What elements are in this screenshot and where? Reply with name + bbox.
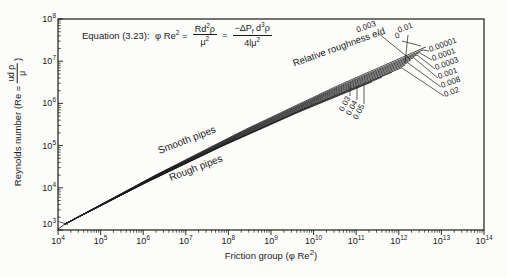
curve-ed-0.003 [65, 60, 411, 224]
x-tick-label-10e9: 109 [257, 235, 285, 246]
x-tick-label-10e8: 108 [214, 235, 242, 246]
x-tick-label-10e6: 106 [129, 235, 157, 246]
equation-fraction-2: −ΔPf d3ρ 4lμ2 [233, 21, 272, 49]
label-relative-roughness: Relative roughness e/d [291, 25, 386, 69]
curve-ed-0.04 [65, 77, 382, 224]
laminar-flow-line [58, 224, 65, 229]
leader-line-ed-0.00001 [423, 50, 429, 51]
roughness-label-0.01: 0.01 [396, 21, 414, 35]
x-axis-title: Friction group (φ Re2) [58, 248, 484, 261]
x-tick-label-10e10: 1010 [300, 235, 328, 246]
x-tick-label-10e14: 1014 [470, 235, 498, 246]
x-tick-label-10e12: 1012 [385, 235, 413, 246]
equation-fraction-1: Rd2ρ μ2 [193, 22, 217, 48]
y-tick-label-10e8: 108 [32, 13, 56, 24]
x-tick-label-10e7: 107 [172, 235, 200, 246]
leader-line-ed-0.003 [378, 33, 410, 59]
y-axis-title: Reynolds number (Re = ud ρ μ ) [7, 58, 28, 186]
x-tick-label-10e5: 105 [87, 235, 115, 246]
y-tick-label-10e3: 103 [32, 218, 56, 229]
y-tick-label-10e4: 104 [32, 182, 56, 193]
y-tick-label-10e5: 105 [32, 140, 56, 151]
curve-ed-0.03 [65, 72, 392, 224]
x-tick-label-10e4: 104 [44, 235, 72, 246]
y-tick-label-10e6: 106 [32, 97, 56, 108]
y-axis-fraction: ud ρ μ [7, 63, 28, 84]
leader-line-ed-0 [402, 41, 421, 46]
pipe-friction-chart: 00.000010.00010.00030.0010.0030.0080.010… [0, 0, 507, 278]
curve-ed-0.02 [65, 68, 402, 225]
y-tick-label-10e7: 107 [32, 55, 56, 66]
x-tick-label-10e13: 1013 [427, 235, 455, 246]
x-tick-label-10e11: 1011 [342, 235, 370, 246]
equation-annotation: Equation (3.23): φ Re2 = Rd2ρ μ2 = −ΔPf … [82, 21, 272, 49]
equation-prefix: Equation (3.23): φ Re2 = [82, 29, 188, 41]
equation-equals: = [222, 29, 228, 40]
